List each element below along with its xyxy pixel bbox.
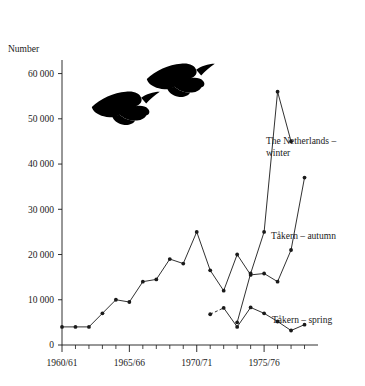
data-point [249,272,253,276]
y-axis-title: Number [8,44,40,54]
data-point [235,253,239,257]
series-label-layer: Tåkern – autumnThe Netherlands –winterTå… [266,136,336,325]
y-tick-label: 30 000 [28,205,54,215]
series-label-takern-autumn: Tåkern – autumn [271,231,336,241]
y-axis-tick-labels: 010 00020 00030 00040 00050 00060 000 [28,69,54,350]
line-chart-canvas: 010 00020 00030 00040 00050 00060 000 19… [0,0,365,386]
data-point [303,176,307,180]
series-1 [235,90,293,325]
y-tick-label: 10 000 [28,295,54,305]
data-point [249,306,253,310]
data-point [235,320,239,324]
data-point [181,262,185,266]
data-point [208,312,212,316]
data-point [101,311,105,315]
series-0 [60,176,306,329]
data-point [168,257,172,261]
y-tick-label: 20 000 [28,250,54,260]
data-point [127,300,131,304]
data-point [262,272,266,276]
y-axis-ticks [58,74,62,345]
series-label-takern-spring: Tåkern – spring [272,315,332,325]
data-point [154,278,158,282]
y-tick-label: 60 000 [28,69,54,79]
data-point [262,230,266,234]
data-series-layer [60,90,306,333]
data-point [141,280,145,284]
data-point [276,90,280,94]
data-point [60,325,64,329]
x-tick-label: 1965/66 [114,358,145,368]
data-point [289,248,293,252]
series-segment-dashed [210,308,223,314]
data-point [114,298,118,302]
data-point [276,280,280,284]
x-tick-label: 1960/61 [46,358,77,368]
data-point [74,325,78,329]
y-tick-label: 0 [49,340,54,350]
data-point [208,268,212,272]
x-tick-label: 1970/71 [181,358,212,368]
series-label-netherlands-winter: The Netherlands –winter [266,136,336,158]
series-line [62,178,305,327]
x-axis-tick-labels: 1960/611965/661970/711975/76 [46,358,279,368]
x-axis-ticks [62,345,305,352]
y-tick-label: 50 000 [28,114,54,124]
data-point [289,329,293,333]
data-point [222,289,226,293]
data-point [262,311,266,315]
series-line [237,92,291,323]
y-tick-label: 40 000 [28,159,54,169]
data-point [235,325,239,329]
goose-silhouette-group [92,64,215,126]
x-tick-label: 1975/76 [249,358,280,368]
data-point [87,325,91,329]
data-point [222,306,226,310]
goose-silhouette-lower [92,92,160,126]
chart-figure: 010 00020 00030 00040 00050 00060 000 19… [0,0,365,386]
data-point [195,230,199,234]
